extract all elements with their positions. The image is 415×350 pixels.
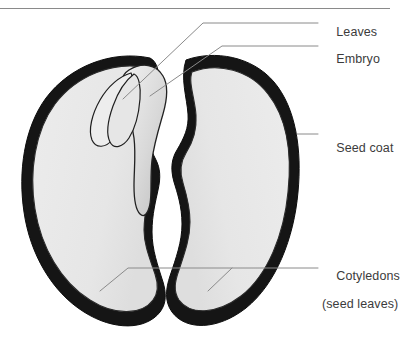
label-leaves-text: Leaves — [336, 25, 377, 39]
label-cotyledons-text: Cotyledons — [336, 269, 400, 283]
label-seed-coat: Seed coat — [322, 127, 394, 169]
label-seed-coat-text: Seed coat — [336, 141, 393, 155]
label-cotyledons: Cotyledons (seed leaves) — [322, 255, 400, 339]
label-embryo: Embryo — [322, 38, 380, 80]
label-embryo-text: Embryo — [336, 52, 380, 66]
right-cotyledon — [167, 55, 300, 325]
label-cotyledons-subtext: (seed leaves) — [322, 297, 400, 311]
seed-structure-figure: Leaves Embryo Seed coat Cotyledons (seed… — [0, 0, 415, 350]
